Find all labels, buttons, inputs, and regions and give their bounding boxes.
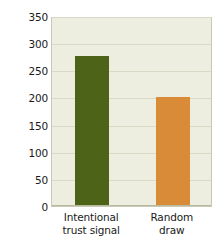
bar	[75, 56, 109, 206]
x-label-line: trust signal	[51, 224, 132, 237]
bar	[156, 97, 190, 206]
x-axis-category-labels: Intentional trust signal Random draw	[51, 211, 212, 243]
y-tick-label: 100	[18, 147, 48, 159]
y-tick-label: 350	[18, 11, 48, 23]
y-tick-label: 200	[18, 92, 48, 104]
x-axis-line	[52, 205, 211, 206]
x-label-random-draw: Random draw	[132, 211, 213, 236]
plot-area	[51, 17, 212, 207]
y-axis-tick-labels: 350 300 250 200 150 100 50 0	[18, 17, 48, 207]
bars-layer	[52, 18, 211, 206]
x-label-line: Intentional	[51, 211, 132, 224]
x-label-intentional-trust-signal: Intentional trust signal	[51, 211, 132, 236]
x-label-line: draw	[132, 224, 213, 237]
oxytocin-bar-chart: Level of oxytocin (pg/ml) 350 300 250 20…	[0, 0, 223, 246]
y-tick-label: 0	[18, 201, 48, 213]
y-tick-label: 50	[18, 174, 48, 186]
x-label-line: Random	[132, 211, 213, 224]
y-tick-label: 150	[18, 120, 48, 132]
y-tick-label: 300	[18, 38, 48, 50]
y-tick-label: 250	[18, 65, 48, 77]
